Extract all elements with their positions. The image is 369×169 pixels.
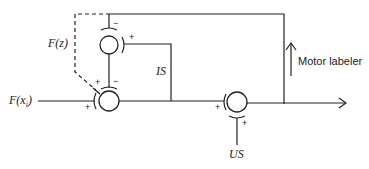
input-label: F(xi) [8, 93, 32, 109]
upper-summing-node [100, 36, 118, 54]
upper-node-right-bracket [122, 37, 124, 53]
upper-node-top-bracket [101, 28, 117, 30]
right-node-left-bracket [224, 94, 226, 110]
us-label: US [229, 147, 244, 161]
upper-node-right-sign: + [129, 32, 134, 42]
internal-signal-label: IS [155, 64, 166, 78]
feedback-function-label: F(z) [47, 36, 68, 50]
lower-node-topleft-sign: + [95, 77, 100, 87]
input-label-main: F(x [8, 93, 26, 107]
lower-node-top-sign: − [113, 76, 118, 86]
lower-node-left-sign: + [85, 102, 90, 112]
right-node-bottom-sign: + [242, 118, 247, 128]
top-feedback-line [110, 14, 284, 104]
right-node-left-sign: + [215, 102, 220, 112]
lower-left-summing-node [99, 91, 119, 111]
right-summing-node [227, 92, 247, 112]
input-label-close: ) [27, 93, 32, 107]
upper-node-top-sign: − [113, 18, 118, 28]
block-diagram: − + + − + + + F(z) IS US Motor labeler F… [0, 0, 369, 169]
lower-node-diag-bracket [93, 88, 100, 94]
motor-labeler-label: Motor labeler [298, 55, 363, 67]
